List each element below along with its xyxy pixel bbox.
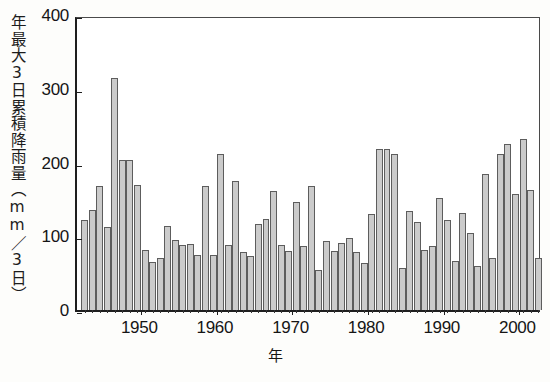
chart-figure: 年最大3日累積降雨量（mm／3日） 0100200300400 19501960… bbox=[0, 0, 550, 382]
x-axis-minor-tick bbox=[364, 310, 365, 313]
x-axis-minor-tick bbox=[440, 310, 441, 313]
x-axis-minor-tick bbox=[228, 310, 229, 313]
bar bbox=[232, 181, 239, 310]
bar bbox=[285, 251, 292, 310]
bar bbox=[489, 258, 496, 310]
x-axis-minor-tick bbox=[402, 310, 403, 313]
x-axis-minor-tick bbox=[395, 310, 396, 313]
bar bbox=[157, 258, 164, 310]
x-axis-minor-tick bbox=[145, 310, 146, 313]
bar bbox=[338, 243, 345, 310]
y-axis-tick-label: 400 bbox=[23, 6, 69, 26]
bar bbox=[172, 240, 179, 310]
bar bbox=[368, 214, 375, 310]
bar bbox=[429, 246, 436, 310]
x-axis-minor-tick bbox=[349, 310, 350, 313]
bar bbox=[278, 245, 285, 310]
bar bbox=[96, 186, 103, 310]
x-axis-tick bbox=[368, 310, 369, 315]
bar bbox=[436, 198, 443, 310]
y-axis-tick bbox=[77, 18, 82, 19]
bar bbox=[104, 227, 111, 310]
x-axis-minor-tick bbox=[334, 310, 335, 313]
x-axis-minor-tick bbox=[531, 310, 532, 313]
x-axis-minor-tick bbox=[251, 310, 252, 313]
bar bbox=[474, 266, 481, 310]
x-axis-tick bbox=[141, 310, 142, 315]
x-axis-tick-label: 1960 bbox=[187, 318, 243, 338]
x-axis-minor-tick bbox=[198, 310, 199, 313]
bar bbox=[225, 245, 232, 310]
x-axis-minor-tick bbox=[221, 310, 222, 313]
bar bbox=[497, 154, 504, 310]
bar bbox=[520, 139, 527, 310]
bar bbox=[527, 190, 534, 310]
x-axis-minor-tick bbox=[357, 310, 358, 313]
bar bbox=[210, 255, 217, 310]
x-axis-minor-tick bbox=[175, 310, 176, 313]
bar bbox=[308, 186, 315, 310]
x-axis-minor-tick bbox=[500, 310, 501, 313]
x-axis-minor-tick bbox=[206, 310, 207, 313]
x-axis-minor-tick bbox=[274, 310, 275, 313]
plot-area bbox=[75, 17, 540, 312]
x-axis-tick bbox=[444, 310, 445, 315]
bar bbox=[240, 252, 247, 310]
bar bbox=[406, 211, 413, 310]
x-axis-minor-tick bbox=[319, 310, 320, 313]
bar bbox=[202, 186, 209, 310]
bar bbox=[444, 220, 451, 310]
bar-series bbox=[77, 18, 539, 310]
x-axis-minor-tick bbox=[379, 310, 380, 313]
x-axis-minor-tick bbox=[387, 310, 388, 313]
bar bbox=[255, 224, 262, 310]
x-axis-minor-tick bbox=[115, 310, 116, 313]
x-axis-minor-tick bbox=[296, 310, 297, 313]
x-axis-minor-tick bbox=[160, 310, 161, 313]
bar bbox=[247, 256, 254, 310]
x-axis-minor-tick bbox=[463, 310, 464, 313]
x-axis-minor-tick bbox=[508, 310, 509, 313]
bar bbox=[535, 258, 542, 310]
bar bbox=[149, 262, 156, 310]
x-axis-minor-tick bbox=[236, 310, 237, 313]
bar bbox=[421, 250, 428, 310]
bar bbox=[459, 213, 466, 310]
x-axis-tick-label: 1950 bbox=[111, 318, 167, 338]
x-axis-minor-tick bbox=[213, 310, 214, 313]
y-axis-tick-label: 200 bbox=[23, 154, 69, 174]
bar bbox=[81, 220, 88, 310]
x-axis-minor-tick bbox=[478, 310, 479, 313]
bar bbox=[452, 261, 459, 310]
x-axis-minor-tick bbox=[447, 310, 448, 313]
bar bbox=[391, 154, 398, 310]
y-axis-tick bbox=[77, 239, 82, 240]
y-axis-tick bbox=[77, 92, 82, 93]
bar bbox=[414, 222, 421, 310]
bar bbox=[126, 160, 133, 310]
x-axis-minor-tick bbox=[538, 310, 539, 313]
x-axis-minor-tick bbox=[342, 310, 343, 313]
x-axis-minor-tick bbox=[417, 310, 418, 313]
bar bbox=[353, 252, 360, 310]
bar bbox=[482, 174, 489, 310]
bar bbox=[179, 245, 186, 310]
x-axis-minor-tick bbox=[243, 310, 244, 313]
x-axis-minor-tick bbox=[372, 310, 373, 313]
y-axis-tick bbox=[77, 313, 82, 314]
x-axis-minor-tick bbox=[107, 310, 108, 313]
x-axis-minor-tick bbox=[130, 310, 131, 313]
x-axis-minor-tick bbox=[85, 310, 86, 313]
bar bbox=[187, 244, 194, 310]
x-axis-minor-tick bbox=[266, 310, 267, 313]
x-axis-title: 年 bbox=[0, 344, 550, 365]
x-axis-minor-tick bbox=[516, 310, 517, 313]
x-axis-minor-tick bbox=[304, 310, 305, 313]
x-axis-minor-tick bbox=[281, 310, 282, 313]
y-axis-tick-label: 100 bbox=[23, 227, 69, 247]
x-axis-minor-tick bbox=[432, 310, 433, 313]
x-axis-tick-label: 1990 bbox=[414, 318, 470, 338]
x-axis-minor-tick bbox=[327, 310, 328, 313]
bar bbox=[300, 246, 307, 310]
x-axis-minor-tick bbox=[92, 310, 93, 313]
